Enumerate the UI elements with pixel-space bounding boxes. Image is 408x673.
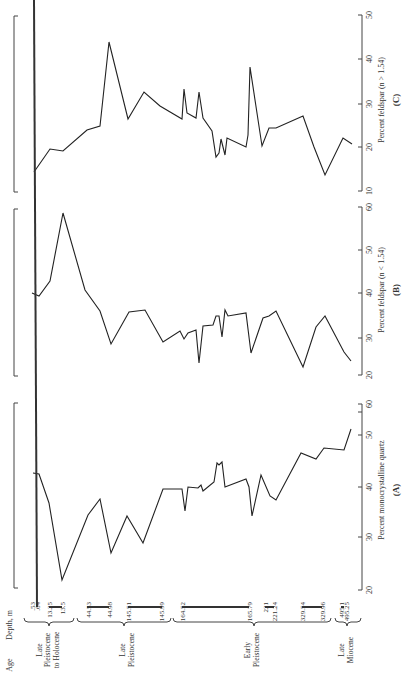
axis-title: Percent monocrystalline quartz — [377, 440, 386, 540]
tick-label: 20 — [365, 371, 374, 379]
tick-label: 40 — [365, 55, 374, 63]
panel-c — [14, 15, 362, 192]
depth-label: 145.51 — [125, 602, 133, 622]
tick-label: 50 — [365, 246, 374, 254]
tick-label: 60 — [365, 203, 374, 211]
panel-b-value-axis — [358, 207, 362, 375]
panel-c-left-axis — [14, 16, 18, 192]
tick-label: 60 — [365, 400, 374, 408]
panel-a — [14, 403, 362, 590]
depth-label: 495.25 — [343, 602, 351, 622]
panel-label: (C) — [391, 94, 401, 107]
axis-title: Percent feldspar (n < 1.54) — [377, 247, 386, 333]
panel-a-left-axis — [14, 403, 18, 588]
depth-label: 44.53 — [85, 602, 93, 618]
age-label: to Holocene — [52, 631, 61, 668]
depth-label: 13.5 — [59, 602, 67, 615]
tick-label: 20 — [365, 143, 374, 151]
tick-label: 30 — [365, 100, 374, 108]
age-braces — [24, 618, 361, 626]
tick-label: 30 — [365, 533, 374, 541]
age-header: Age — [5, 658, 14, 672]
depth-markers — [34, 0, 344, 607]
age-label: Pleistocene — [252, 632, 261, 667]
tick-label: 10 — [365, 187, 374, 195]
panel-c-value-axis — [358, 15, 362, 191]
panel-label: (A) — [391, 484, 401, 497]
depth-label: 164.52 — [179, 602, 187, 622]
panel-label: (B) — [391, 284, 401, 296]
panel-b — [14, 207, 362, 376]
figure: 2030405060Percent monocrystalline quartz… — [0, 0, 408, 673]
tick-label: 50 — [365, 431, 374, 439]
depth-label: 145.99 — [158, 602, 166, 622]
depth-label: 221 — [262, 602, 270, 613]
panel-c-series — [34, 42, 352, 175]
tick-label: 20 — [365, 586, 374, 594]
depth-header: Depth, m — [5, 609, 14, 640]
depth-label: 44.98 — [106, 602, 114, 618]
depth-label: .64 — [34, 602, 42, 611]
depth-label: 165.79 — [246, 602, 254, 622]
panel-a-value-axis — [358, 404, 362, 590]
age-label: Late — [118, 643, 127, 657]
age-label: Late — [337, 643, 346, 657]
panel-b-left-axis — [14, 209, 18, 376]
depth-label: 13.25 — [46, 602, 54, 618]
depth-label: 221.24 — [271, 602, 279, 622]
tick-label: 40 — [365, 483, 374, 491]
tick-label: 40 — [365, 289, 374, 297]
axis-title: Percent feldspar (n > 1.54) — [377, 57, 386, 143]
depth-label: 329.54 — [299, 602, 307, 622]
age-label: Pleistocene — [43, 632, 52, 667]
age-label: Early — [243, 642, 252, 658]
depth-label: 329.96 — [319, 602, 327, 622]
panel-b-series — [32, 213, 351, 367]
age-label: Miocene — [346, 636, 355, 663]
tick-label: 30 — [365, 334, 374, 342]
age-label: Pleistocene — [127, 632, 136, 667]
panel-a-series — [33, 429, 351, 580]
tick-label: 50 — [365, 11, 374, 19]
